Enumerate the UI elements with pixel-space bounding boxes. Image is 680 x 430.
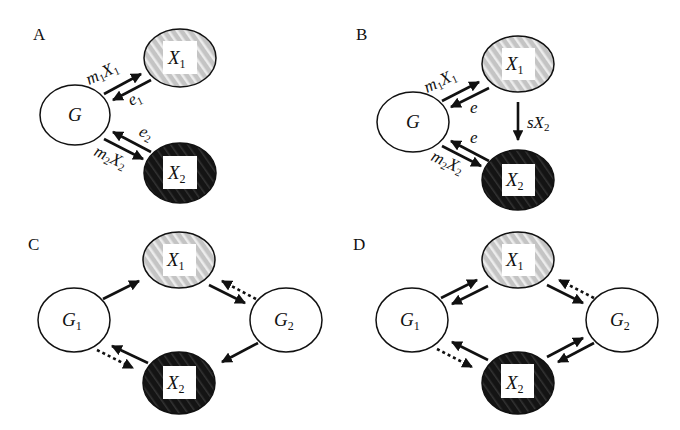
edge-g2-to-x2 <box>222 343 258 362</box>
node-g: G <box>40 85 110 145</box>
edge-x1-to-g2 <box>547 285 583 303</box>
edge-g1-to-x1 <box>103 281 139 299</box>
node-g1: G1 <box>38 288 110 352</box>
edge-label-e-upper: e <box>470 98 478 117</box>
node-g1: G1 <box>376 288 448 352</box>
svg-text:G: G <box>68 104 82 125</box>
edge-x2-to-g2 <box>547 338 583 357</box>
edge-label-m1x1: m1X1 <box>83 57 122 89</box>
panel-d: D G1 G2 X1 X2 <box>353 232 658 414</box>
svg-text:G: G <box>406 111 420 132</box>
node-x1: X1 <box>482 232 554 288</box>
panel-label-d: D <box>353 235 365 254</box>
node-x2: X2 <box>482 150 554 210</box>
edge-x2-to-g1 <box>112 346 148 363</box>
edge-x2-to-g1 <box>452 342 488 360</box>
node-x1: X1 <box>144 29 216 87</box>
edge-x1-to-g2 <box>209 285 245 303</box>
edge-g2-to-x2 <box>558 343 594 362</box>
panel-b: B G X1 X2 m1X1 e sX2 e m2X2 <box>356 25 554 210</box>
edge-g2-to-x1-dotted <box>559 280 594 298</box>
node-x1: X1 <box>482 36 554 92</box>
edge-label-e-lower: e <box>470 128 478 147</box>
edge-g1-to-x2-dotted <box>437 349 472 367</box>
edge-label-e2: e2 <box>136 121 156 145</box>
node-g2: G2 <box>586 288 658 352</box>
edge-label-m2x2: m2X2 <box>428 146 467 178</box>
network-diagram-figure: A G X1 X2 m1X1 e1 e2 m2X2 B G <box>0 0 680 430</box>
node-x2: X2 <box>144 143 216 203</box>
node-x2: X2 <box>482 352 554 414</box>
node-x1: X1 <box>143 232 215 288</box>
panel-label-b: B <box>356 25 367 44</box>
panel-a: A G X1 X2 m1X1 e1 e2 m2X2 <box>33 25 216 203</box>
edge-label-sx2: sX2 <box>527 113 550 133</box>
panel-label-c: C <box>28 235 39 254</box>
panel-c: C G1 G2 X1 X2 <box>28 232 322 414</box>
edge-label-m1x1: m1X1 <box>421 65 460 97</box>
edge-label-m2x2: m2X2 <box>91 141 130 173</box>
panel-label-a: A <box>33 25 46 44</box>
node-g2: G2 <box>250 288 322 352</box>
edge-label-e1: e1 <box>125 87 145 111</box>
node-x2: X2 <box>143 352 215 414</box>
node-g: G <box>377 92 449 152</box>
edge-g2-to-x1-dotted <box>222 281 256 299</box>
